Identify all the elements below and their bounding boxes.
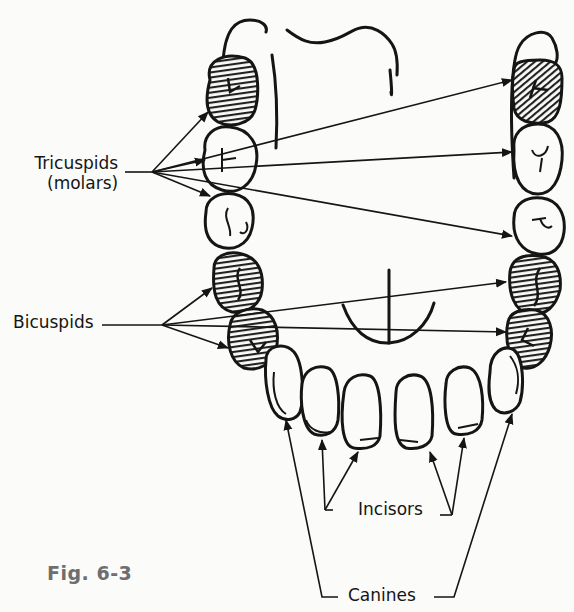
tricuspids-label: Tricuspids (molars) [31,153,118,193]
right-premolar-1 [510,256,561,315]
tricuspids-label-line1: Tricuspids [31,153,118,173]
right-canine [489,348,523,413]
palate-outline [223,20,557,178]
left-molar-1 [207,56,258,125]
right-incisor-2 [395,375,433,449]
dental-arch-diagram [0,0,574,612]
bicuspids-label: Bicuspids [13,312,94,332]
incisive-papilla [343,270,434,343]
right-molar-1 [513,60,563,123]
figure-caption: Fig. 6-3 [47,562,132,584]
bicuspid-leader-lines [102,282,506,348]
incisors-label: Incisors [358,499,423,519]
left-premolar-1 [214,253,263,313]
left-incisor-2 [342,375,381,449]
tricuspids-label-line2: (molars) [31,173,118,193]
tricuspid-leader-lines [125,80,512,236]
right-molar-3 [514,198,565,255]
left-canine [266,346,303,419]
left-molar-2 [203,127,257,192]
right-molar-2 [514,124,563,194]
left-incisor-3 [301,367,338,435]
canines-label: Canines [348,585,416,605]
right-incisor-3 [445,367,483,435]
left-molar-3 [205,194,253,249]
